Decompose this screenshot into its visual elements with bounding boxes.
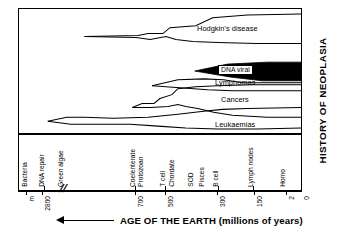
x-axis-tick-label: 2 xyxy=(289,196,296,200)
left-arrow-icon xyxy=(56,215,116,225)
wedge-label-lymphomas: Lymphomas xyxy=(215,79,255,86)
wedge-leukaemias xyxy=(48,107,301,129)
neoplasia-wedge-curves xyxy=(19,9,301,133)
wedge-label-dna-viral: DNA viral xyxy=(218,65,253,75)
event-label-b-cell: B cell xyxy=(213,171,220,187)
x-axis-tick-label: 150 xyxy=(257,196,264,207)
figure-title: HISTORY OF NEOPLASIA xyxy=(307,0,337,200)
x-axis-tick-label: 700 xyxy=(138,196,145,207)
x-axis-tick xyxy=(217,190,218,195)
event-label-chordate: Chordate xyxy=(169,160,176,187)
x-axis-tick xyxy=(135,190,136,195)
event-label-pisces: Pisces xyxy=(199,167,206,187)
event-label-coelenterate: Coelenterate xyxy=(130,149,137,187)
history-of-neoplasia-figure: Hodgkin's disease DNA viral Lymphomas Ca… xyxy=(0,0,337,233)
x-axis-tick-label: 2800 xyxy=(45,196,52,211)
event-label-protozoan: Protozoan xyxy=(138,157,145,187)
figure-title-text: HISTORY OF NEOPLASIA xyxy=(317,37,328,163)
x-axis-tick xyxy=(26,190,27,195)
wedge-label-cancers: Cancers xyxy=(221,96,249,103)
event-label-sod: SOD xyxy=(188,173,195,187)
x-axis-caption-text: AGE OF THE EARTH (millions of years) xyxy=(120,215,303,226)
x-axis-tick-label: m xyxy=(29,196,36,202)
x-axis-tick-label: 300 xyxy=(220,196,227,207)
wedge-hodgkins-disease xyxy=(85,14,301,44)
wedge-label-hodgkins-disease: Hodgkin's disease xyxy=(197,25,258,32)
x-axis-caption: AGE OF THE EARTH (millions of years) xyxy=(18,212,318,228)
axis-break-icon: // xyxy=(60,183,66,194)
event-label-homo: Homo xyxy=(280,169,287,187)
x-axis-tick xyxy=(286,190,287,195)
x-axis-tick xyxy=(165,190,166,195)
x-axis-tick xyxy=(254,190,255,195)
event-label-t-cell: T cell xyxy=(160,171,167,187)
event-label-dna-repair: DNA repair xyxy=(39,155,46,187)
x-axis-tick-label: 500 xyxy=(168,196,175,207)
event-label-lymph-nodes: Lymph nodes xyxy=(248,147,255,187)
x-axis-tick xyxy=(42,190,43,195)
plot-area: Hodgkin's disease DNA viral Lymphomas Ca… xyxy=(18,8,302,134)
wedge-label-leukaemias: Leukaemias xyxy=(215,121,255,128)
event-label-bacteria: Bacteria xyxy=(22,163,29,187)
